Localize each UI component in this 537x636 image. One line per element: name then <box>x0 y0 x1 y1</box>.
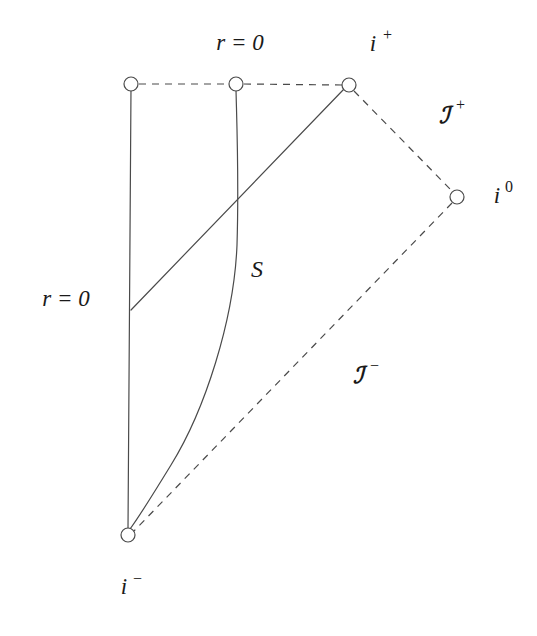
label-i-zero-base: i <box>494 183 500 208</box>
label-scri-plus-superscript: + <box>456 96 465 113</box>
label-surface-S: S <box>251 256 263 282</box>
node-top-middle-r0 <box>229 77 243 91</box>
label-i-minus-base: i <box>121 574 127 599</box>
label-i-plus-base: i <box>370 31 376 56</box>
label-i-plus-superscript: + <box>383 26 392 43</box>
label-r-zero-left: r = 0 <box>42 286 90 311</box>
node-i-minus <box>121 528 135 542</box>
node-i-plus <box>342 78 356 92</box>
penrose-diagram: r = 0 r = 0 i + i 0 i − ℐ + ℐ − S <box>0 0 537 636</box>
label-r-zero-top: r = 0 <box>216 30 264 55</box>
node-top-left-r0 <box>124 77 138 91</box>
label-i-minus-superscript: − <box>133 570 142 587</box>
label-i-zero-superscript: 0 <box>505 178 513 195</box>
node-i-zero <box>450 190 464 204</box>
label-scri-minus-superscript: − <box>370 357 379 374</box>
